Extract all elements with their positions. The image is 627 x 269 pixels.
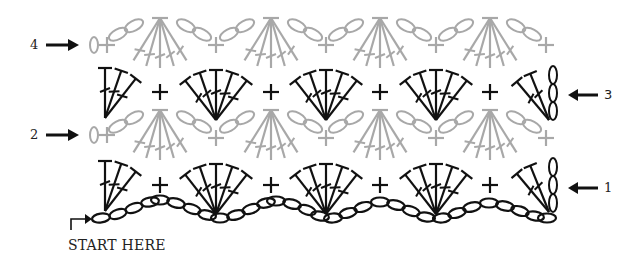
row-1-sc (372, 177, 388, 193)
start-arrow-icon (71, 214, 92, 230)
row-2-fan (437, 107, 543, 160)
start-here-label: START HERE (68, 237, 166, 253)
row-label-3: 3 (604, 88, 612, 101)
row-4-fan (437, 15, 543, 68)
row-label-4: 4 (30, 38, 38, 51)
row-3-fan (400, 70, 473, 124)
row-4-fan (218, 15, 324, 68)
row-2-turning-chain (90, 127, 98, 143)
row-4 (90, 15, 554, 68)
crochet-chart (0, 0, 627, 269)
row-4-arrow (46, 39, 79, 51)
row-2-fan (218, 107, 324, 160)
row-3-sc (263, 84, 279, 100)
row-3-sc (482, 84, 498, 100)
row-1-arrow (568, 182, 598, 194)
row-2-fan (327, 107, 433, 160)
row-4-sc (99, 37, 115, 53)
row-4-fan (327, 15, 433, 68)
row-label-2: 2 (30, 128, 38, 141)
row-1-sc (263, 177, 279, 193)
row-2-arrow (46, 129, 79, 141)
row-4-fan (107, 15, 213, 68)
row-1-fan (400, 164, 473, 218)
row-3-sc (152, 84, 168, 100)
row-3-arrow (568, 89, 598, 101)
row-4-turning-chain (90, 37, 98, 53)
row-3-fan (180, 70, 253, 124)
row-1-halffan-right (511, 158, 557, 216)
row-2-sc (99, 127, 115, 143)
row-label-1: 1 (604, 181, 612, 194)
row-1-sc (482, 177, 498, 193)
row-1-sc (152, 177, 168, 193)
row-1 (98, 158, 557, 218)
row-3-fan (290, 70, 363, 124)
row-2-fan (107, 107, 213, 160)
row-3-sc (372, 84, 388, 100)
row-3-halffan-right (511, 66, 557, 124)
